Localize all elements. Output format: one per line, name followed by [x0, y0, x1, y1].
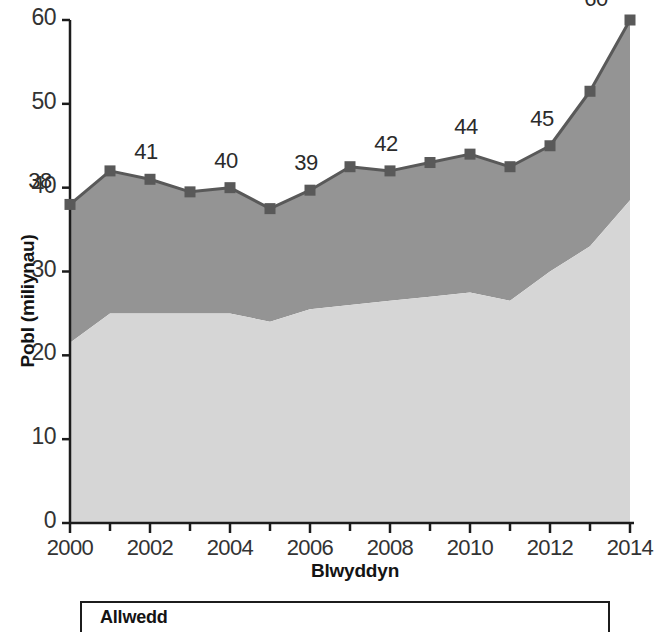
- x-axis-title: Blwyddyn: [255, 560, 455, 582]
- data-point-marker: [305, 185, 316, 196]
- x-tick-label: 2012: [510, 535, 590, 561]
- data-point-marker: [585, 86, 596, 97]
- data-point-label: 38: [10, 168, 70, 194]
- y-tick-label: 10: [12, 423, 56, 450]
- data-point-marker: [105, 165, 116, 176]
- y-tick-label: 50: [12, 88, 56, 115]
- legend-title: Allwedd: [100, 607, 168, 628]
- data-point-label: 42: [356, 131, 416, 157]
- data-point-label: 60: [566, 0, 626, 12]
- data-point-marker: [265, 203, 276, 214]
- data-point-marker: [145, 174, 156, 185]
- data-point-marker: [65, 199, 76, 210]
- data-point-label: 40: [196, 148, 256, 174]
- legend-box: Allwedd: [80, 601, 610, 632]
- data-point-marker: [625, 15, 636, 26]
- data-point-marker: [425, 157, 436, 168]
- x-tick-label: 2014: [590, 535, 658, 561]
- x-tick-label: 2002: [110, 535, 190, 561]
- data-point-marker: [465, 149, 476, 160]
- data-point-label: 44: [436, 114, 496, 140]
- y-tick-label: 20: [12, 339, 56, 366]
- data-point-marker: [505, 161, 516, 172]
- data-point-marker: [385, 165, 396, 176]
- data-point-label: 41: [116, 139, 176, 165]
- data-point-marker: [345, 161, 356, 172]
- y-tick-label: 0: [12, 507, 56, 534]
- stacked-areas: [70, 20, 630, 523]
- y-tick-label: 30: [12, 256, 56, 283]
- x-tick-label: 2010: [430, 535, 510, 561]
- data-point-label: 45: [512, 106, 572, 132]
- data-point-marker: [225, 182, 236, 193]
- data-point-marker: [185, 186, 196, 197]
- y-axis-title: Pobl (miliynau): [17, 161, 39, 441]
- x-tick-label: 2006: [270, 535, 350, 561]
- data-point-marker: [545, 140, 556, 151]
- x-tick-label: 2000: [30, 535, 110, 561]
- data-point-label: 39: [276, 150, 336, 176]
- y-tick-label: 60: [12, 4, 56, 31]
- x-tick-label: 2004: [190, 535, 270, 561]
- x-tick-label: 2008: [350, 535, 430, 561]
